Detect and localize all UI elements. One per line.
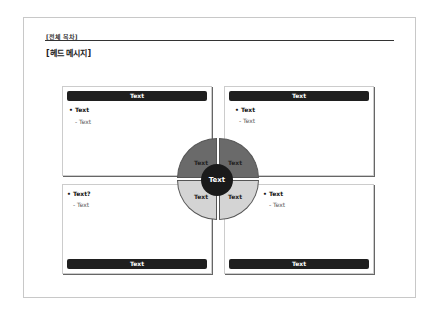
box-title-bar: Text	[67, 259, 207, 269]
diagram-center-circle: Text	[201, 164, 233, 196]
sub-bullet-text: - Text	[239, 117, 255, 124]
bullet-text: • Text?	[67, 190, 91, 197]
sub-bullet-text: - Text	[73, 201, 89, 208]
box-title-bar: Text	[67, 91, 207, 101]
bullet-text: • Text	[69, 106, 89, 113]
sub-bullet-text: - Text	[269, 201, 285, 208]
head-message: [헤드 메시지]	[46, 47, 91, 58]
bullet-text: • Text	[263, 190, 283, 197]
header-divider	[45, 40, 394, 41]
box-title-bar: Text	[229, 91, 369, 101]
bullet-text: • Text	[235, 106, 255, 113]
sub-bullet-text: - Text	[75, 118, 91, 125]
box-title-bar: Text	[229, 259, 369, 269]
